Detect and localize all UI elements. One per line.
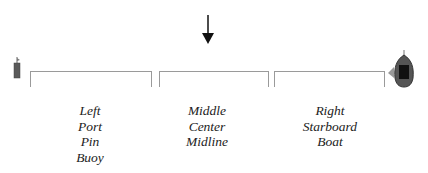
label-middle: Middle (172, 103, 242, 119)
label-left: Left (60, 103, 120, 119)
label-starboard: Starboard (290, 119, 370, 135)
label-port: Port (60, 119, 120, 135)
label-boat: Boat (290, 134, 370, 150)
label-right: Right (290, 103, 370, 119)
bracket-left (30, 71, 152, 87)
label-center: Center (172, 119, 242, 135)
label-pin: Pin (60, 134, 120, 150)
bracket-right (274, 71, 385, 87)
label-buoy: Buoy (60, 150, 120, 166)
section-left-labels: Left Port Pin Buoy (60, 103, 120, 165)
boat-icon (388, 50, 414, 90)
down-arrow-icon (202, 15, 214, 45)
label-midline: Midline (172, 134, 242, 150)
section-right-labels: Right Starboard Boat (290, 103, 370, 150)
section-middle-labels: Middle Center Midline (172, 103, 242, 150)
buoy-icon (13, 57, 21, 79)
bracket-middle (159, 71, 269, 87)
